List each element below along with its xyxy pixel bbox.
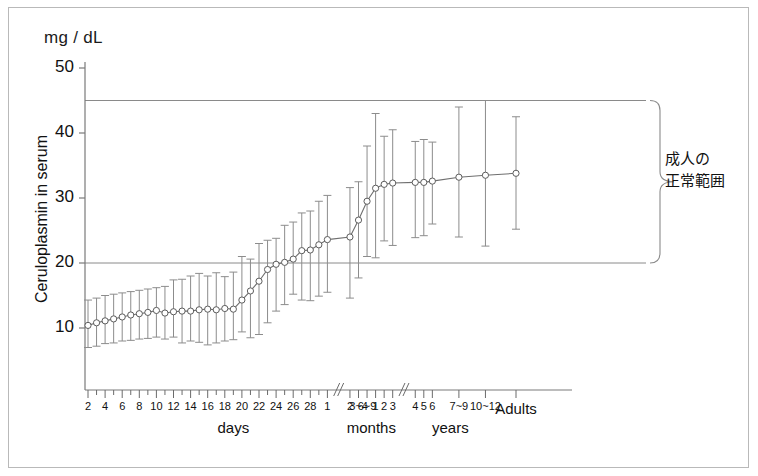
data-point-13 — [196, 307, 202, 313]
data-point-5 — [128, 312, 134, 318]
data-point-14 — [205, 306, 211, 312]
data-point-23 — [282, 259, 288, 265]
data-point-28 — [324, 237, 330, 243]
data-point-38 — [456, 174, 462, 180]
data-point-18 — [239, 297, 245, 303]
y-tick-label-50: 50 — [40, 57, 74, 77]
data-point-15 — [213, 307, 219, 313]
data-point-37 — [429, 178, 435, 184]
data-point-16 — [222, 305, 228, 311]
data-point-20 — [256, 278, 262, 284]
data-point-22 — [273, 261, 279, 267]
data-point-31 — [364, 198, 370, 204]
data-point-17 — [230, 306, 236, 312]
data-point-19 — [247, 288, 253, 294]
annotation-line-2: 正常範囲 — [665, 170, 725, 192]
y-tick-label-10: 10 — [40, 317, 74, 337]
data-point-9 — [162, 310, 168, 316]
data-point-32 — [373, 185, 379, 191]
y-axis-unit-label: mg / dL — [44, 28, 103, 48]
data-point-4 — [119, 314, 125, 320]
data-point-29 — [347, 234, 353, 240]
y-tick-label-20: 20 — [40, 252, 74, 272]
x-tick-label-26: Adults — [490, 400, 542, 417]
data-point-33 — [381, 181, 387, 187]
data-point-8 — [153, 307, 159, 313]
data-point-10 — [170, 309, 176, 315]
annotation-line-1: 成人の — [665, 148, 725, 170]
data-point-0 — [85, 322, 91, 328]
data-point-27 — [316, 242, 322, 248]
data-point-34 — [390, 180, 396, 186]
data-point-7 — [145, 309, 151, 315]
data-point-21 — [264, 266, 270, 272]
data-point-3 — [111, 316, 117, 322]
y-tick-label-30: 30 — [40, 187, 74, 207]
data-point-39 — [482, 172, 488, 178]
data-point-35 — [412, 179, 418, 185]
section-label-days: days — [173, 419, 293, 436]
data-point-36 — [421, 179, 427, 185]
data-point-26 — [307, 247, 313, 253]
data-point-25 — [299, 248, 305, 254]
data-point-11 — [179, 308, 185, 314]
figure-page: mg / dL Ceruloplasmin in serum 102030405… — [0, 0, 758, 476]
data-point-40 — [513, 170, 519, 176]
section-label-years: years — [390, 419, 510, 436]
data-point-30 — [355, 217, 361, 223]
data-point-1 — [93, 320, 99, 326]
adult-normal-range-annotation: 成人の 正常範囲 — [665, 148, 725, 192]
data-point-6 — [136, 311, 142, 317]
data-point-2 — [102, 318, 108, 324]
y-tick-label-40: 40 — [40, 122, 74, 142]
data-point-24 — [290, 256, 296, 262]
data-point-12 — [188, 308, 194, 314]
